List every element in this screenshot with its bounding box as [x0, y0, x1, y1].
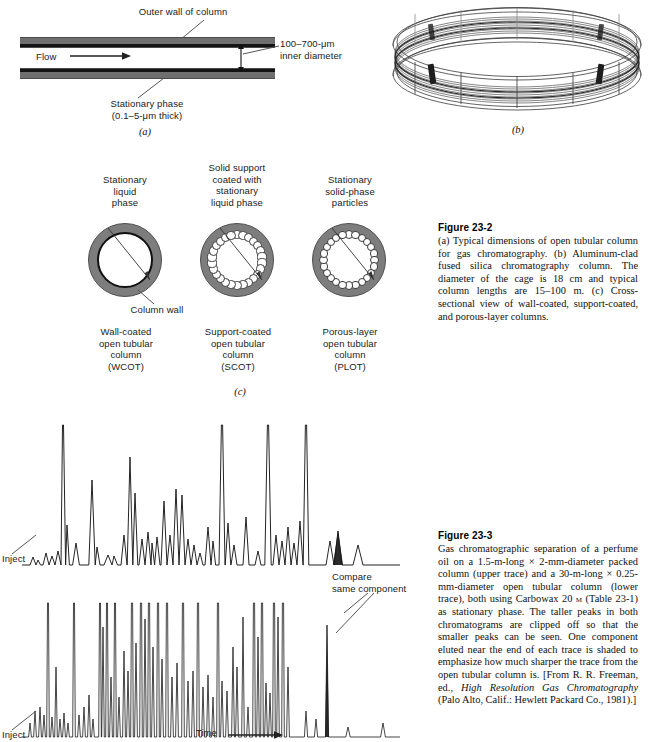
panel-a-open-tubular-column: Outer wall of column Flow 100–700-μm inn…: [0, 0, 375, 140]
inner-diameter-label: 100–700-μm inner diameter: [280, 38, 375, 61]
caption-text-italic-title: High Resolution Gas Chromatography: [461, 682, 638, 693]
column-wall-label: Column wall: [108, 304, 206, 316]
chromatogram-trace-line: [22, 425, 400, 565]
coiled-column-drawing: [385, 2, 650, 124]
upper-trace-packed-column: [22, 425, 400, 565]
wcot-bottom-label: Wall-coated open tubular column (WCOT): [80, 326, 172, 372]
inner-diameter-leader-line: [243, 44, 283, 56]
stationary-phase-label: Stationary phase (0.1–5-μm thick): [62, 98, 232, 121]
compare-same-component-label: Compare same component: [332, 571, 442, 594]
flow-arrow-icon: [70, 50, 132, 62]
scot-bottom-label: Support-coated open tubular column (SCOT…: [188, 326, 288, 372]
figure-23-2-caption-text: (a) Typical dimensions of open tubular c…: [438, 235, 638, 323]
plot-bottom-label: Porous-layer open tubular column (PLOT): [300, 326, 400, 372]
stationary-phase-leader-line: [130, 78, 170, 100]
figure-23-2-caption: Figure 23-2 (a) Typical dimensions of op…: [438, 222, 638, 323]
caption-text-part3: (Palo Alto, Calif.: Hewlett Packard Co.,…: [438, 694, 636, 705]
figure-23-2-caption-title: Figure 23-2: [438, 222, 638, 233]
inject-upper-label: Inject: [2, 553, 52, 565]
panel-c-cross-sections: Stationary liquid phase Column wall Wall…: [80, 168, 410, 403]
panel-b-letter: (b): [503, 124, 533, 135]
scot-top-label: Solid support coated with stationary liq…: [188, 162, 286, 208]
inject-lower-label: Inject: [2, 729, 52, 741]
compare-lower-leader-line: [330, 593, 378, 635]
figure-23-3-chromatograms: Inject Compare same component Inject Tim…: [0, 405, 650, 742]
panel-a-letter: (a): [130, 126, 160, 137]
time-arrow-icon: [228, 729, 284, 741]
wcot-top-label: Stationary liquid phase: [82, 174, 168, 209]
plot-top-label: Stationary solid-phase particles: [302, 174, 398, 209]
panel-c-letter: (c): [225, 386, 255, 397]
figure-23-3-caption-title: Figure 23-3: [438, 530, 638, 541]
panel-b-coiled-column-cage: (b): [385, 2, 650, 142]
figure-page: Outer wall of column Flow 100–700-μm inn…: [0, 0, 650, 742]
plot-stationary-phase-arrow: [328, 226, 384, 288]
figure-23-3-caption-text: Gas chromatographic separation of a perf…: [438, 543, 638, 707]
time-axis-label: Time: [196, 727, 217, 738]
wcot-stationary-phase-arrow: [104, 226, 160, 288]
caption-text-part2: (Table 23-1) as stationary phase. The ta…: [438, 593, 638, 692]
outer-wall-label: Outer wall of column: [103, 6, 263, 18]
figure-23-3-caption: Figure 23-3 Gas chromatographic separati…: [438, 530, 638, 707]
scot-stationary-phase-arrow: [216, 226, 272, 288]
